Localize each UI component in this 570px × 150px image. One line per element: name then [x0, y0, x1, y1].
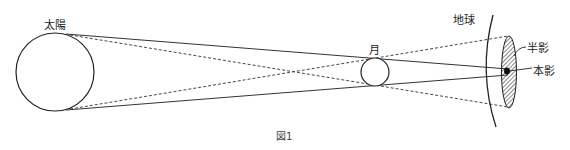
sun-circle — [16, 33, 94, 111]
earth-surface-arc — [486, 15, 496, 127]
moon-label: 月 — [369, 44, 380, 57]
eclipse-diagram: 太陽 月 地球 半影 本影 図1 — [0, 0, 570, 150]
moon-circle — [361, 58, 389, 86]
sun-label: 太陽 — [44, 19, 66, 32]
umbra-line-top — [66, 34, 508, 69]
penumbra-line-top — [70, 35, 508, 107]
umbra-line-bottom — [66, 75, 508, 110]
penumbra-line-bottom — [70, 36, 508, 109]
penumbra-label: 半影 — [527, 41, 549, 55]
figure-caption: 図1 — [276, 131, 292, 142]
earth-label: 地球 — [453, 13, 475, 27]
umbra-label: 本影 — [533, 64, 555, 78]
